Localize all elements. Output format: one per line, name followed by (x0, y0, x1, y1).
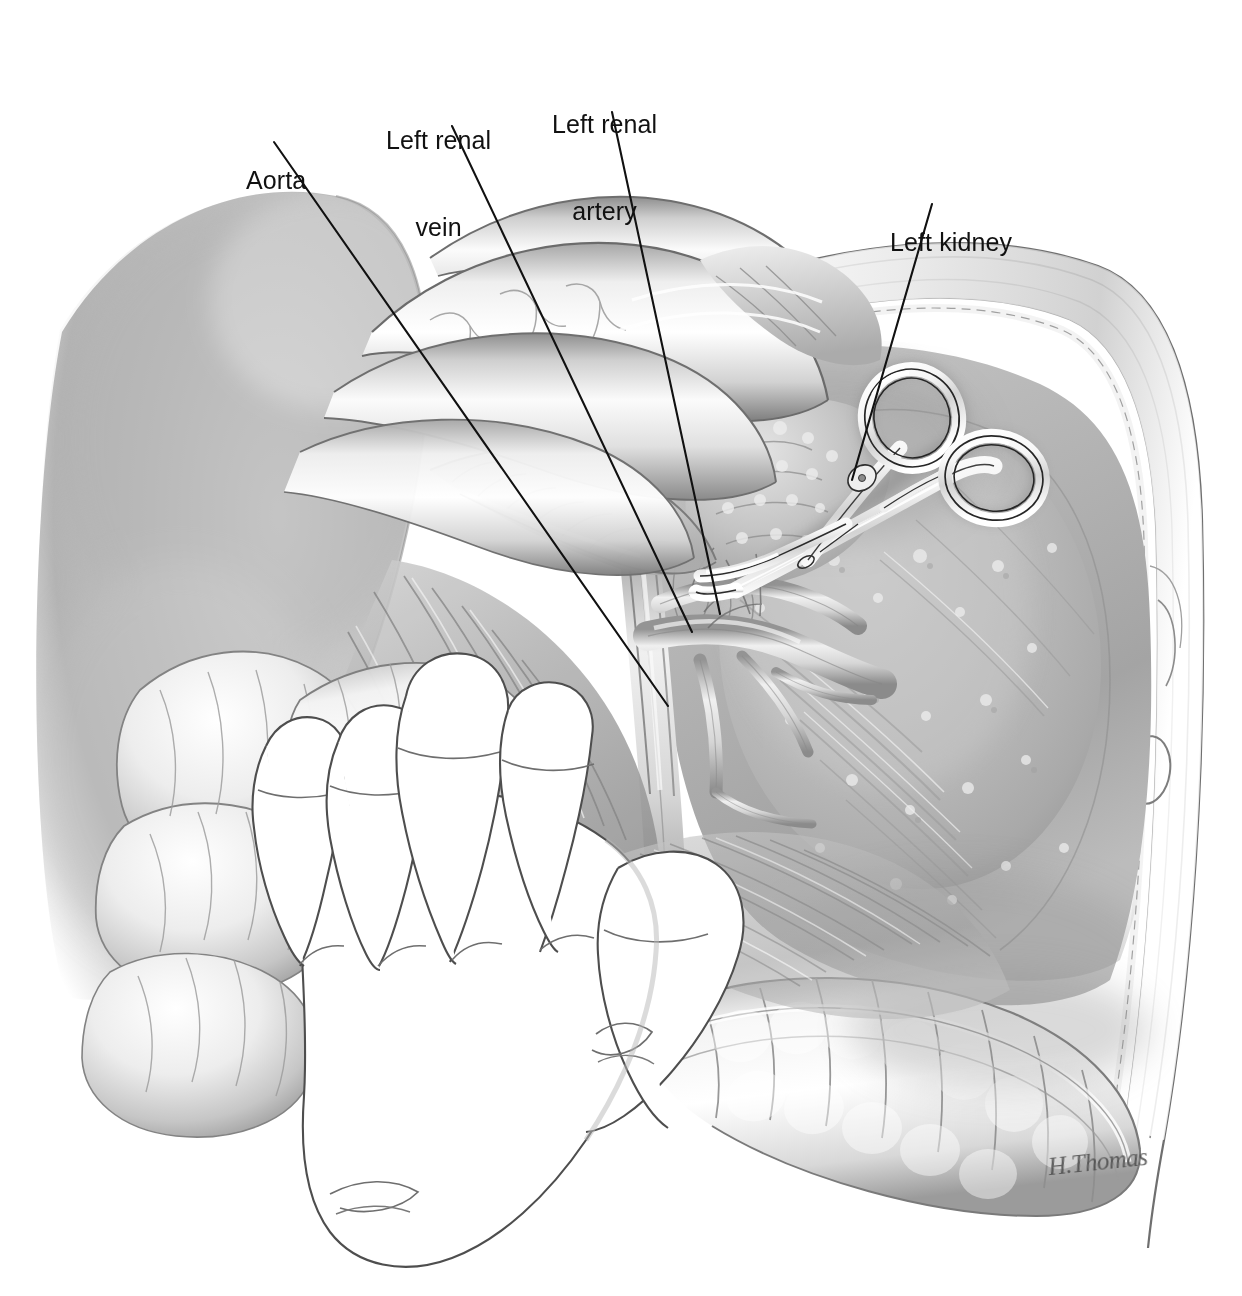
label-left-renal-vein-line-2: vein (386, 213, 491, 242)
label-aorta: Aorta (246, 108, 306, 253)
label-left-kidney: Left kidney (890, 170, 1012, 315)
illustration-figure: Aorta Left renal vein Left renal artery … (0, 0, 1242, 1296)
label-aorta-line-1: Aorta (246, 166, 306, 195)
label-left-renal-vein-line-1: Left renal (386, 126, 491, 155)
label-left-renal-artery-line-2: artery (552, 197, 657, 226)
label-left-renal-vein: Left renal vein (386, 68, 491, 300)
label-left-renal-artery-line-1: Left renal (552, 110, 657, 139)
label-left-renal-artery: Left renal artery (552, 52, 657, 284)
label-left-kidney-line-1: Left kidney (890, 228, 1012, 257)
